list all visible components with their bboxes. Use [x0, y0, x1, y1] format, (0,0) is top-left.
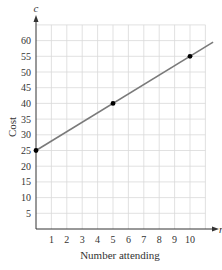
- y-tick-label: 50: [21, 67, 31, 78]
- x-axis-label: Number attending: [80, 249, 160, 261]
- x-tick-label: 6: [126, 234, 131, 245]
- data-point: [188, 54, 193, 59]
- y-axis-variable: c: [34, 2, 39, 14]
- x-tick-label: 2: [64, 234, 69, 245]
- x-tick-label: 10: [185, 234, 195, 245]
- y-tick-label: 35: [21, 114, 31, 125]
- y-axis-label: Cost: [6, 117, 18, 137]
- x-tick-label: 9: [172, 234, 177, 245]
- x-tick-label: 4: [95, 234, 100, 245]
- x-tick-label: 1: [49, 234, 54, 245]
- y-tick-label: 25: [21, 145, 31, 156]
- y-axis-arrow-icon: [34, 15, 39, 22]
- data-line: [36, 42, 213, 150]
- y-tick-label: 15: [21, 176, 31, 187]
- y-tick-label: 10: [21, 192, 31, 203]
- chart: 1234567891051015202530354045505560cnNumb…: [0, 0, 222, 270]
- x-tick-label: 5: [111, 234, 116, 245]
- x-axis-variable: n: [219, 223, 222, 235]
- y-tick-label: 60: [21, 35, 31, 46]
- data-point: [34, 148, 39, 153]
- data-point: [111, 101, 116, 106]
- x-tick-label: 7: [141, 234, 146, 245]
- y-tick-label: 55: [21, 51, 31, 62]
- y-tick-label: 30: [21, 129, 31, 140]
- x-tick-label: 8: [157, 234, 162, 245]
- y-tick-label: 5: [26, 208, 31, 219]
- x-axis-arrow-icon: [212, 227, 219, 232]
- y-tick-label: 45: [21, 82, 31, 93]
- y-tick-label: 20: [21, 161, 31, 172]
- x-tick-label: 3: [80, 234, 85, 245]
- y-tick-label: 40: [21, 98, 31, 109]
